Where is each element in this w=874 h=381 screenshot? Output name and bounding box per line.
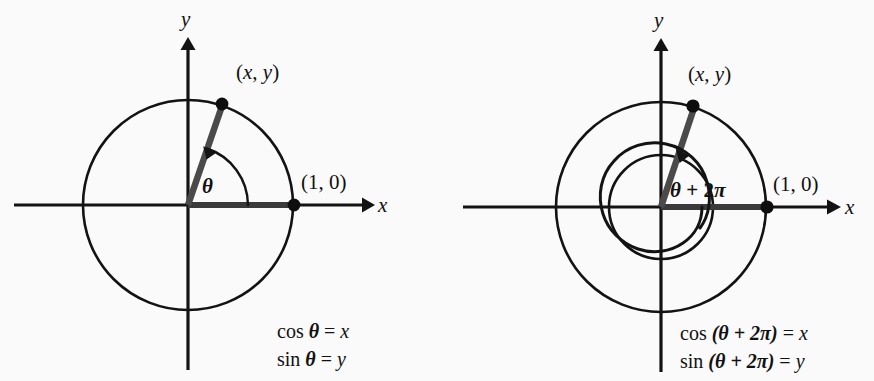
x-axis-arrowhead <box>827 200 841 215</box>
point-x-y-label: (x, y) <box>688 62 731 86</box>
equation-cosine-result: x <box>339 320 349 342</box>
point-x-y-dot <box>686 99 699 112</box>
angle-theta-plus-two-pi-label: θ + 2π <box>670 178 726 202</box>
unit-circle-diagram-theta-plus-two-pi: x y (x, y) (1, 0) θ + 2π cos (θ + 2π) = … <box>437 0 874 381</box>
angle-label-theta: θ <box>670 178 681 202</box>
equation-cosine-arg: θ <box>309 320 320 342</box>
point-one-zero-label: (1, 0) <box>773 172 819 196</box>
equation-cosine-equals: = <box>783 322 794 344</box>
x-axis-label: x <box>844 195 855 219</box>
equation-sine: sin θ = y <box>277 348 346 371</box>
equation-cosine-result: x <box>798 322 808 344</box>
equation-cosine-fn: cos <box>680 322 707 344</box>
point-x-y-label: (x, y) <box>236 60 279 84</box>
point-label-close-paren: ) <box>724 62 731 86</box>
unit-circle-diagram-theta: x y (x, y) (1, 0) θ cos θ = x sin θ = y <box>0 0 437 381</box>
point-label-y: y <box>713 62 725 86</box>
equation-sine-fn: sin <box>277 348 300 370</box>
equation-sine-arg: θ <box>305 348 316 370</box>
point-label-y: y <box>261 60 273 84</box>
point-label-open-paren: ( <box>236 60 243 84</box>
figure-root: x y (x, y) (1, 0) θ cos θ = x sin θ = y <box>0 0 874 381</box>
equation-cosine-arg: (θ + 2π) <box>712 322 778 345</box>
equation-sine-arg: (θ + 2π) <box>708 350 774 373</box>
point-one-zero-label: (1, 0) <box>301 170 347 194</box>
point-x-y-dot <box>216 98 229 111</box>
y-axis-label: y <box>652 8 664 32</box>
angle-label-two: 2 <box>703 178 714 202</box>
y-axis-label: y <box>179 7 191 31</box>
equation-sine-result: y <box>794 350 805 373</box>
equation-cosine-equals: = <box>324 320 335 342</box>
equation-sine-equals: = <box>321 348 332 370</box>
equation-sine: sin (θ + 2π) = y <box>680 350 805 373</box>
equation-cosine: cos θ = x <box>277 320 349 342</box>
point-label-comma: , <box>252 60 263 84</box>
point-label-open-paren: ( <box>688 62 695 86</box>
angle-arc-theta <box>207 149 248 206</box>
point-one-zero-dot <box>288 199 301 212</box>
equation-sine-result: y <box>335 348 346 371</box>
equation-sine-fn: sin <box>680 350 703 372</box>
y-axis-arrowhead <box>654 38 669 51</box>
equation-sine-equals: = <box>779 350 790 372</box>
point-label-close-paren: ) <box>272 60 279 84</box>
equation-cosine-fn: cos <box>277 320 304 342</box>
equation-cosine: cos (θ + 2π) = x <box>680 322 808 345</box>
x-axis-arrowhead <box>362 198 375 213</box>
angle-label-pi: π <box>714 178 726 202</box>
point-one-zero-dot <box>760 200 773 213</box>
angle-label-plus: + <box>686 178 698 202</box>
angle-theta-label: θ <box>202 174 213 198</box>
point-label-comma: , <box>704 62 715 86</box>
y-axis-arrowhead <box>181 37 196 50</box>
x-axis-label: x <box>377 193 388 217</box>
